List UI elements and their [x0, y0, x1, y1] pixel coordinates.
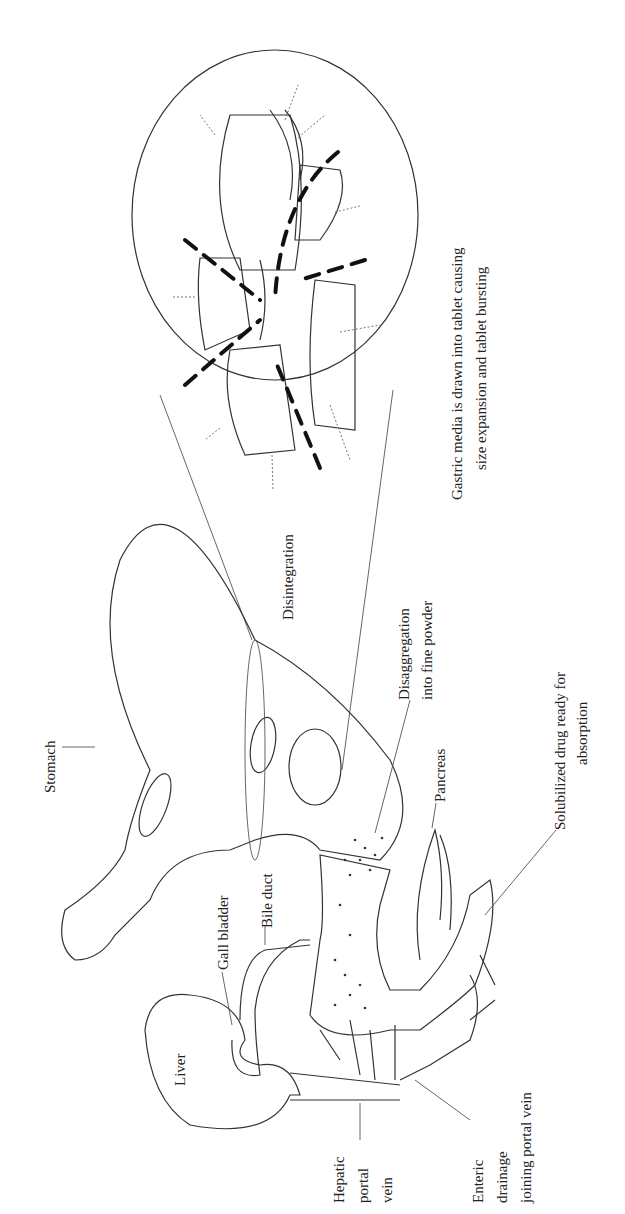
label-disaggregation-1: Disaggregation — [396, 608, 412, 700]
label-disintegration: Disintegration — [280, 534, 296, 620]
liver — [145, 994, 300, 1128]
gastric-media-flow — [185, 152, 365, 468]
magnified-tablet-circle — [132, 50, 418, 380]
gall-bladder-leader — [222, 972, 232, 1025]
pancreas-leader — [432, 803, 436, 828]
gall-bladder — [232, 940, 310, 1076]
label-enteric-2: drainage — [494, 1151, 510, 1203]
zoom-line-left — [160, 395, 252, 640]
label-pancreas: Pancreas — [432, 749, 448, 802]
label-gall-bladder: Gall bladder — [215, 895, 231, 970]
stomach-cross-section — [245, 640, 265, 860]
label-liver: Liver — [172, 1054, 188, 1086]
label-stomach: Stomach — [42, 740, 58, 793]
drug-absorption-diagram: Gastric media is drawn into tablet causi… — [0, 0, 625, 1214]
label-enteric-1: Enteric — [470, 1159, 486, 1203]
tablet-fragments — [289, 729, 341, 805]
label-solubilized-2: absorption — [574, 701, 590, 765]
label-gastric-media-2: size expansion and tablet bursting — [473, 266, 489, 470]
enteric-leader — [415, 1080, 470, 1120]
label-disaggregation-2: into fine powder — [419, 601, 435, 700]
label-hepatic-1: Hepatic — [331, 1156, 347, 1203]
bile-duct — [240, 945, 310, 1020]
solubilized-leader — [485, 830, 556, 915]
label-hepatic-2: portal — [355, 1168, 371, 1203]
duodenum — [310, 855, 493, 1035]
label-solubilized-1: Solubilized drug ready for — [552, 672, 568, 830]
stomach-outline — [62, 524, 403, 960]
intact-tablet — [132, 770, 177, 840]
label-enteric-3: joining portal vein — [518, 1092, 534, 1204]
pancreas — [417, 830, 451, 960]
hepatic-portal-vein — [290, 1073, 400, 1100]
disaggregation-leader — [375, 700, 410, 833]
tablet-disintegrating — [246, 715, 279, 774]
fine-powder-dots — [334, 837, 384, 1010]
label-bile-duct: Bile duct — [259, 873, 275, 928]
enteric-vessels — [320, 955, 495, 1080]
label-hepatic-3: vein — [379, 1177, 395, 1203]
label-gastric-media-1: Gastric media is drawn into tablet causi… — [449, 247, 465, 500]
